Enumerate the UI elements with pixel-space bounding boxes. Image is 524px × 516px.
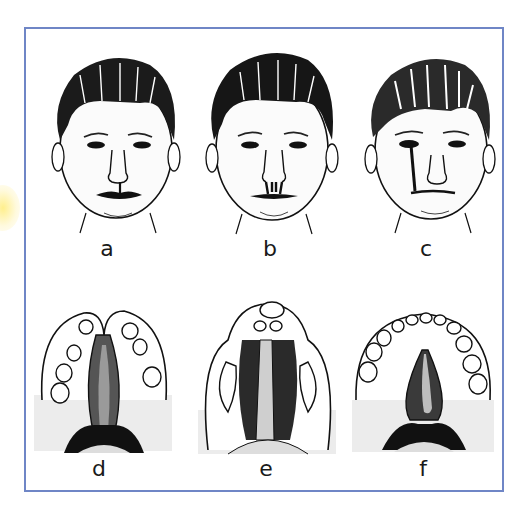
palate-illustration-f: [352, 300, 496, 455]
face-illustration-b: [196, 42, 346, 237]
panel-b-face: [196, 42, 346, 237]
panel-label-c: c: [406, 238, 446, 260]
yellow-highlight-glow: [0, 185, 20, 231]
panel-c-face: [355, 45, 505, 235]
panel-f-palate: [352, 300, 496, 455]
face-illustration-c: [355, 45, 505, 235]
palate-illustration-d: [34, 305, 174, 455]
panel-a-face: [40, 45, 190, 235]
face-illustration-a: [40, 45, 190, 235]
panel-label-f: f: [403, 458, 443, 480]
panel-label-d: d: [79, 458, 119, 480]
panel-e-palate: [198, 300, 338, 456]
panel-label-b: b: [250, 238, 290, 260]
panel-label-a: a: [87, 238, 127, 260]
panel-label-e: e: [246, 458, 286, 480]
panel-d-palate: [34, 305, 174, 455]
palate-illustration-e: [198, 300, 338, 456]
